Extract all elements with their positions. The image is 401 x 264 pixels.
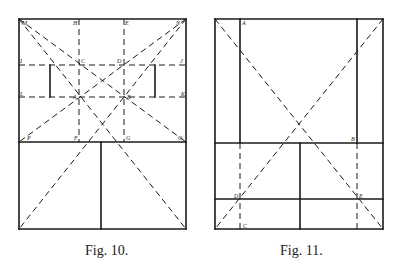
point-label: L bbox=[19, 91, 24, 97]
point-label: A bbox=[241, 20, 246, 26]
point-label: K bbox=[180, 91, 186, 97]
point-label: D bbox=[233, 193, 239, 199]
point-label: G bbox=[126, 135, 131, 141]
point-label: B bbox=[127, 94, 131, 100]
diagram-canvas: MHENICDJLABKPFGO ABDEC bbox=[0, 0, 401, 264]
point-label: O bbox=[178, 135, 183, 141]
figure-11-caption: Fig. 11. bbox=[280, 243, 323, 259]
point-label: B bbox=[351, 136, 355, 142]
point-label: C bbox=[81, 58, 86, 64]
point-label: H bbox=[72, 20, 78, 26]
point-label: F bbox=[73, 135, 78, 141]
point-label: J bbox=[180, 58, 183, 64]
point-label: N bbox=[175, 20, 181, 26]
figure-10-caption: Fig. 10. bbox=[85, 243, 128, 259]
point-label: M bbox=[21, 20, 28, 26]
point-label: I bbox=[19, 58, 23, 64]
figure-10-diagram: MHENICDJLABKPFGO bbox=[19, 19, 186, 229]
point-label: D bbox=[116, 58, 122, 64]
point-label: C bbox=[243, 223, 248, 229]
point-label: E bbox=[358, 193, 363, 199]
point-label: A bbox=[72, 94, 77, 100]
figure-11-diagram: ABDEC bbox=[215, 19, 383, 229]
point-label: P bbox=[26, 135, 31, 141]
point-label: E bbox=[124, 20, 129, 26]
